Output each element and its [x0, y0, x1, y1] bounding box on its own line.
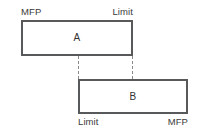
block-a-right-edge-label: Limit: [0, 7, 133, 17]
block-b-label: B: [130, 92, 137, 102]
block-a: A: [21, 20, 133, 56]
block-b: B: [78, 79, 188, 114]
dashed-connector-left: [78, 56, 79, 79]
dashed-connector-right: [132, 56, 133, 79]
diagram-canvas: MFP Limit A B Limit MFP: [0, 0, 201, 135]
block-a-label: A: [74, 33, 81, 43]
block-b-right-edge-label: MFP: [0, 117, 188, 127]
